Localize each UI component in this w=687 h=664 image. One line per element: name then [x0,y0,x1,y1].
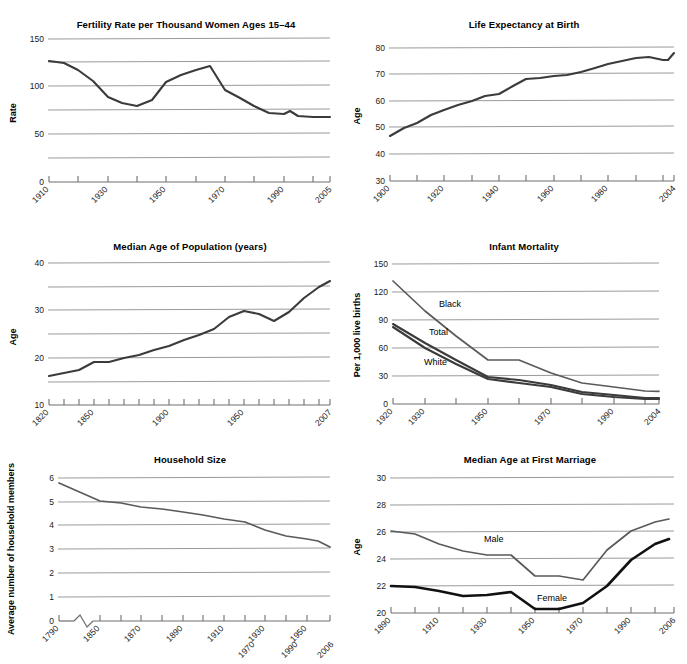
x-tick-1950: 1950 [147,184,168,205]
x-axis [393,398,659,404]
panel-median-age-first-marriage: Median Age at First Marriage 30 28 26 24… [344,445,687,664]
x-tick-1950: 1950 [469,406,490,427]
chart-title: Median Age of Population (years) [113,241,266,252]
x-tick-1960: 1960 [535,183,556,204]
y-tick-20: 20 [35,353,45,363]
y-axis-label: Average number of household members [6,463,16,635]
series-line-male [391,519,669,580]
y-tick-90: 90 [379,315,389,325]
y-tick-28: 28 [377,500,387,510]
x-tick-1990: 1990 [612,615,633,636]
x-tick-1970: 1970 [564,615,585,636]
y-tick-labels: 30 28 26 24 22 20 [377,473,387,618]
y-tick-2: 2 [49,568,54,578]
y-tick-labels: 80 70 60 50 40 30 [376,43,386,186]
x-tick-2004: 2004 [657,183,678,204]
median-age-first-marriage-chart: Median Age at First Marriage 30 28 26 24… [344,445,687,664]
x-tick-1850: 1850 [75,407,96,428]
x-tick-1910: 1910 [30,184,51,205]
household-size-chart: Household Size 6 5 4 3 2 1 0 Average num… [0,445,344,664]
x-tick-2005: 2005 [313,184,334,205]
y-tick-3: 3 [49,544,54,554]
x-tick-1870: 1870 [122,623,143,644]
x-tick-labels: 1900 1920 1940 1960 1980 2004 [371,183,678,204]
y-tick-30: 30 [379,371,389,381]
y-tick-1: 1 [49,592,54,602]
series-line-life-expectancy [390,53,674,136]
x-tick-1910: 1910 [205,623,226,644]
x-tick-1900: 1900 [371,183,392,204]
series-label-black: Black [439,299,462,309]
x-tick-1950: 1950 [516,615,537,636]
chart-title: Fertility Rate per Thousand Women Ages 1… [77,19,296,30]
x-tick-1990: 1990 [595,406,616,427]
y-tick-labels: 6 5 4 3 2 1 0 [49,473,54,626]
x-tick-1930: 1930 [89,184,110,205]
x-tick-1790: 1790 [40,623,61,644]
series-line-fertility [49,61,330,117]
x-tick-1820: 1820 [30,407,51,428]
x-tick-1930: 1930 [406,406,427,427]
series-label-total: Total [429,327,448,337]
x-tick-labels: 1910 1930 1950 1970 1990 2005 [30,184,334,205]
panel-median-age-population: Median Age of Population (years) 40 30 2… [0,230,344,445]
series-label-male: Male [484,534,504,544]
y-tick-60: 60 [376,96,386,106]
y-tick-80: 80 [376,43,386,53]
y-tick-6: 6 [49,473,54,483]
x-tick-1950: 1950 [225,407,246,428]
x-tick-1920: 1920 [374,406,395,427]
x-axis [49,176,330,182]
y-axis-label: Age [352,107,362,124]
series-label-white: White [424,357,447,367]
panel-infant-mortality: Infant Mortality 150 120 90 60 30 0 Per … [344,230,687,445]
x-tick-2007: 2007 [313,407,334,428]
y-tick-labels: 40 30 20 10 [35,258,45,410]
x-tick-1890: 1890 [164,623,185,644]
y-tick-30: 30 [377,473,387,483]
series-line-household-size [59,483,330,547]
chart-title: Household Size [154,454,226,465]
x-tick-1930: 1930 [468,615,489,636]
chart-title: Infant Mortality [489,241,559,252]
infant-mortality-chart: Infant Mortality 150 120 90 60 30 0 Per … [344,230,687,445]
median-age-population-chart: Median Age of Population (years) 40 30 2… [0,230,344,445]
panel-household-size: Household Size 6 5 4 3 2 1 0 Average num… [0,445,344,664]
x-tick-labels: 1820 1850 1900 1950 2007 [30,407,334,428]
x-tick-2004: 2004 [642,406,663,427]
y-tick-150: 150 [30,34,44,44]
x-tick-1990: 1990 [265,184,286,205]
x-tick-1920: 1920 [425,183,446,204]
series-line-median-age [49,281,330,376]
y-tick-labels: 150 120 90 60 30 0 [374,259,388,409]
gridlines [389,47,674,154]
y-tick-labels: 150 100 50 0 [30,34,44,187]
x-axis [49,399,330,405]
chart-title: Life Expectancy at Birth [469,19,580,30]
x-tick-1890: 1890 [372,615,393,636]
y-tick-50: 50 [376,122,386,132]
y-tick-40: 40 [376,149,386,159]
x-tick-1940: 1940 [480,183,501,204]
y-axis-label: Age [352,538,362,555]
y-tick-30: 30 [35,305,45,315]
life-expectancy-chart: Life Expectancy at Birth 80 70 60 50 40 … [344,0,687,230]
y-tick-5: 5 [49,497,54,507]
x-tick-1900: 1900 [150,407,171,428]
panel-fertility-rate: Fertility Rate per Thousand Women Ages 1… [0,0,344,230]
y-axis-label: Age [8,328,18,345]
x-tick-2006: 2006 [315,639,336,660]
y-tick-24: 24 [377,554,387,564]
y-axis-label: Per 1,000 live births [352,293,362,378]
x-tick-1910: 1910 [420,615,441,636]
y-tick-150: 150 [374,259,388,269]
y-tick-26: 26 [377,527,387,537]
y-tick-70: 70 [376,69,386,79]
y-tick-22: 22 [377,581,387,591]
x-tick-1850: 1850 [81,623,102,644]
y-tick-120: 120 [374,287,388,297]
x-tick-2006: 2006 [657,615,678,636]
fertility-rate-chart: Fertility Rate per Thousand Women Ages 1… [0,0,344,230]
y-tick-100: 100 [30,81,44,91]
x-axis [390,175,674,181]
